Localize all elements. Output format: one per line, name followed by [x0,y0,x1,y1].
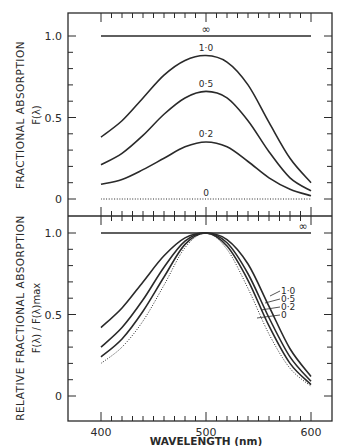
label-top-0: 0 [203,188,209,198]
ytick-bottom-05: 0.5 [45,309,63,322]
ytick-bottom-1: 1.0 [45,227,63,240]
curve-bottom-1·0 [101,233,311,376]
curve-bottom-0·2 [101,233,311,385]
bottom-y-axis-sublabel: F(λ) / F(λ)max [31,283,42,354]
ytick-top-1: 1.0 [45,30,63,43]
curve-labels: ∞1·00·50·20∞1·00·50·20 [199,23,308,320]
absorption-chart: ∞1·00·50·20∞1·00·50·20 1.0 0.5 0 1.0 0.5… [0,0,348,446]
label-bottom-3: 0 [281,310,287,320]
y-tick-labels-bottom: 1.0 0.5 0 [45,227,63,403]
label-bottom-inf: ∞ [298,220,307,233]
top-y-axis-sublabel: F(λ) [31,105,42,125]
ytick-top-0: 0 [55,193,62,206]
curve-top-1·0 [101,56,311,183]
xtick-400: 400 [91,426,112,439]
bottom-panel-curves [101,233,311,386]
y-tick-labels-top: 1.0 0.5 0 [45,30,63,206]
top-y-axis-label: FRACTIONAL ABSORPTION [14,41,26,189]
label-top-02: 0·2 [199,129,213,139]
x-axis-label: WAVELENGTH (nm) [150,435,263,446]
xtick-600: 600 [301,426,322,439]
top-panel-curves [101,36,311,199]
label-top-05: 0·5 [199,79,213,89]
curve-bottom-0 [101,233,311,386]
ytick-top-05: 0.5 [45,112,63,125]
label-top-1: 1·0 [199,43,214,53]
label-top-inf: ∞ [201,23,210,36]
ytick-bottom-0: 0 [55,390,62,403]
bottom-y-axis-label: RELATIVE FRACTIONAL ABSORPTION [14,215,26,421]
